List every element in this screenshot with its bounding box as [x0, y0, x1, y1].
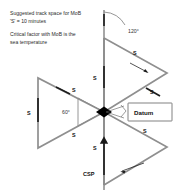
diagram-background: [0, 0, 187, 193]
note-line-1: Suggested track space for MoB: [10, 10, 82, 16]
leg-label-left-vertical: S: [27, 110, 31, 116]
leg-label-top-right-lower: S: [150, 89, 154, 95]
leg-label-left-upper: S: [72, 87, 76, 93]
note-line-3: Critical factor with MoB is the: [10, 31, 76, 37]
angle-label-60: 60°: [62, 109, 70, 115]
note-line-4: sea temperature: [10, 39, 47, 45]
note-line-2: 'S' = 10 minutes: [10, 18, 47, 24]
leg-label-top-right-upper: S: [133, 50, 137, 56]
leg-label-center-upper: S: [93, 75, 97, 81]
datum-label: Datum: [134, 109, 154, 116]
leg-label-center-lower: S: [93, 145, 97, 151]
leg-label-bottom-right: S: [143, 128, 147, 134]
leg-label-left-lower: S: [72, 132, 76, 138]
sector-search-diagram: Suggested track space for MoB 'S' = 10 m…: [0, 0, 187, 193]
csp-label: CSP: [83, 171, 95, 177]
diagram-canvas: Suggested track space for MoB 'S' = 10 m…: [0, 0, 187, 193]
angle-label-120: 120°: [128, 28, 139, 34]
